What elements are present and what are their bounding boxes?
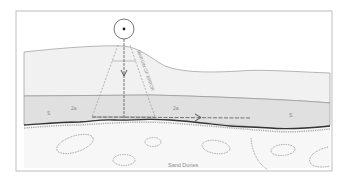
diagram-svg: MARGIN OF ERROR S 2a 2a S Sand Dunes [0, 0, 353, 191]
layer-2a-left-label: 2a [71, 105, 77, 111]
sensor-dot [123, 28, 126, 31]
diagram-canvas: MARGIN OF ERROR S 2a 2a S Sand Dunes [0, 0, 353, 191]
sand-dunes-label: Sand Dunes [168, 162, 199, 168]
layer-2a-right-label: 2a [173, 105, 179, 111]
